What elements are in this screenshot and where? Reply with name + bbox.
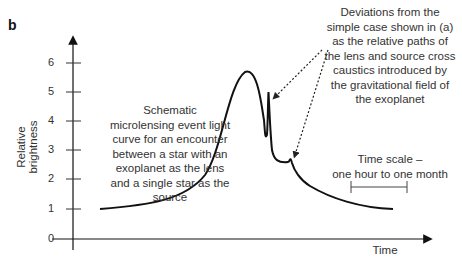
timescale-label: Time scale – one hour to one month [320,152,460,181]
left-annotation: Schematic microlensing event light curve… [95,103,245,205]
y-tick-2: 2 [40,172,54,184]
y-tick-0: 0 [40,232,54,244]
y-axis-label: Relative brightness [15,102,39,192]
y-tick-5: 5 [40,85,54,97]
x-axis-label: Time [360,243,410,258]
pointer-arrow-1 [275,50,322,97]
timescale-bar [351,181,407,193]
y-tick-4: 4 [40,114,54,126]
y-tick-3: 3 [40,143,54,155]
y-tick-1: 1 [40,202,54,214]
right-annotation: Deviations from the simple case shown in… [320,5,460,107]
y-tick-6: 6 [40,56,54,68]
